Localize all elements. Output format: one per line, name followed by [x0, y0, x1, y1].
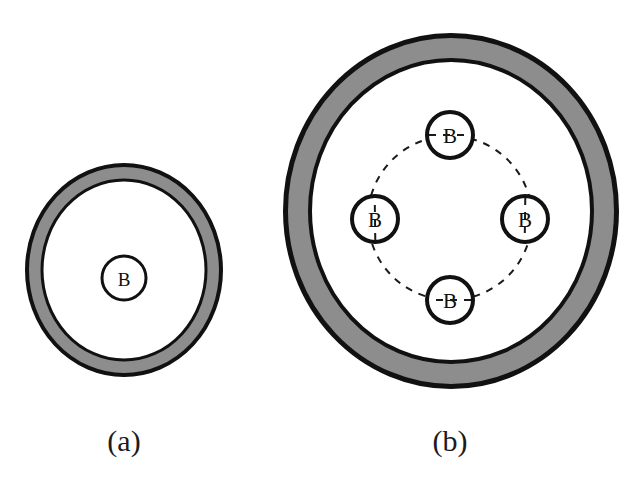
panel-a-bead-label-1: B [118, 269, 131, 290]
panel-a-bead-1: B [102, 256, 146, 300]
panels-group: BBBBB [27, 36, 617, 387]
captions-group: (a)(b) [107, 424, 467, 458]
figure-canvas: BBBBB (a)(b) [0, 0, 641, 487]
panel-b: BBBB [286, 36, 617, 387]
panel-a: B [27, 165, 221, 375]
schematic-diagram: BBBBB (a)(b) [0, 0, 641, 487]
panel-b-caption: (b) [433, 424, 468, 458]
panel-a-caption: (a) [107, 424, 140, 458]
